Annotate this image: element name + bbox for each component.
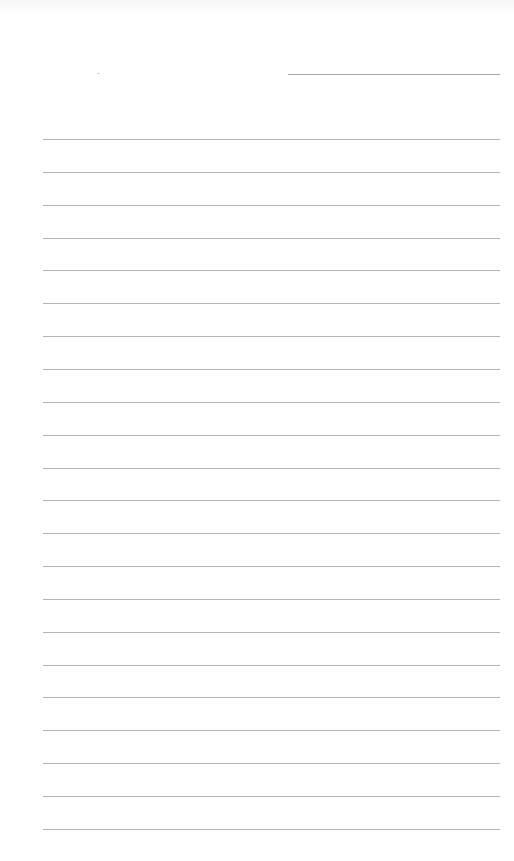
ruled-line (43, 599, 500, 600)
ruled-line (43, 533, 500, 534)
ruled-lines (43, 0, 500, 861)
ruled-line (43, 402, 500, 403)
ruled-line (43, 205, 500, 206)
ruled-line (43, 632, 500, 633)
ruled-line (43, 238, 500, 239)
ruled-line (43, 566, 500, 567)
ruled-line (43, 139, 500, 140)
ruled-line (43, 336, 500, 337)
ruled-line (43, 270, 500, 271)
ruled-line (43, 665, 500, 666)
ruled-line (43, 796, 500, 797)
ruled-line (43, 730, 500, 731)
ruled-line (43, 500, 500, 501)
ruled-line (43, 435, 500, 436)
ruled-line (43, 303, 500, 304)
ruled-line (43, 829, 500, 830)
ruled-line (43, 468, 500, 469)
ruled-line (43, 172, 500, 173)
ruled-line (43, 369, 500, 370)
ruled-line (43, 763, 500, 764)
ruled-line (43, 697, 500, 698)
